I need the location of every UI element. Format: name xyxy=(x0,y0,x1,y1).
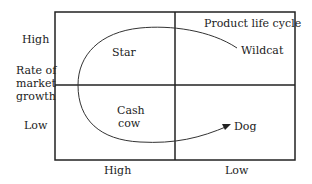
quadrant-cash-cow-2: cow xyxy=(118,117,140,130)
quadrant-dog: Dog xyxy=(234,120,256,133)
x-axis-high: High xyxy=(104,164,131,177)
x-axis-low: Low xyxy=(225,164,248,177)
quadrant-cash-cow-1: Cash xyxy=(117,104,145,117)
y-axis-label-2: market xyxy=(16,77,56,90)
y-axis-high: High xyxy=(22,33,49,46)
arrowhead-icon xyxy=(222,124,231,130)
diagram-title: Product life cycle xyxy=(204,17,301,30)
quadrant-star: Star xyxy=(112,46,136,59)
y-axis-low: Low xyxy=(24,119,47,132)
y-axis-label-3: growth xyxy=(16,90,56,103)
y-axis-label-1: Rate of xyxy=(16,64,56,77)
quadrant-wildcat: Wildcat xyxy=(241,44,283,57)
